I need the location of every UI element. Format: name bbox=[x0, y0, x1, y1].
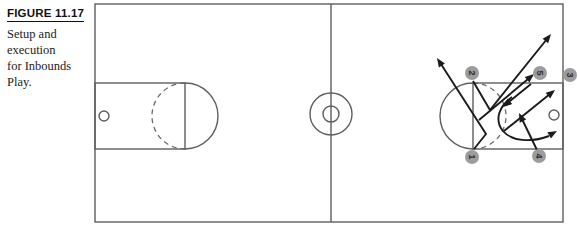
player-marker-5: 5 bbox=[533, 66, 547, 80]
right-basket-icon bbox=[549, 110, 559, 120]
caption-line-2: execution bbox=[7, 42, 93, 58]
player-4-number: 4 bbox=[534, 153, 544, 158]
cut-arrow-player4-lane bbox=[521, 116, 538, 150]
left-free-throw-arc-dashed bbox=[152, 83, 185, 149]
play-arrows bbox=[437, 34, 557, 150]
caption-line-1: Setup and bbox=[7, 26, 93, 42]
player-marker-2: 2 bbox=[465, 66, 479, 80]
arrowhead-curl bbox=[547, 131, 557, 139]
player-marker-3-inbounder: 3 bbox=[563, 68, 577, 82]
figure-page: FIGURE 11.17 Setup and execution for Inb… bbox=[0, 0, 578, 229]
player-marker-4: 4 bbox=[532, 149, 546, 163]
right-free-throw-arc-dashed bbox=[473, 83, 506, 149]
left-basket-icon bbox=[99, 111, 109, 121]
player-2-number: 2 bbox=[467, 70, 477, 75]
court-outline bbox=[95, 4, 563, 222]
player-marker-1: 1 bbox=[465, 150, 479, 164]
player-5-number: 5 bbox=[535, 70, 545, 75]
caption-line-3: for Inbounds bbox=[7, 58, 93, 74]
arrowhead-player1 bbox=[437, 58, 445, 68]
player-1-number: 1 bbox=[467, 154, 477, 159]
player-3-number: 3 bbox=[565, 72, 575, 77]
figure-label: FIGURE 11.17 bbox=[7, 7, 84, 22]
caption-line-4: Play. bbox=[7, 74, 93, 90]
figure-caption: FIGURE 11.17 Setup and execution for Inb… bbox=[7, 3, 93, 90]
left-key bbox=[95, 83, 218, 149]
right-free-throw-arc-solid bbox=[440, 83, 473, 149]
left-free-throw-arc-solid bbox=[185, 83, 218, 149]
